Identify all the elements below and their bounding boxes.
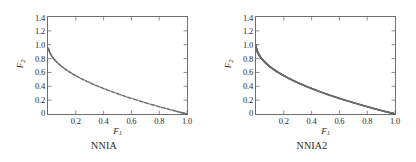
y-tick-label: 0.8 (35, 54, 45, 63)
x-tick-label: 0.2 (71, 117, 81, 126)
plot-svg-nnia (48, 17, 187, 114)
y-tick-label: 1.4 (35, 13, 45, 22)
pareto-curve-nnia (48, 47, 187, 114)
x-tick-label: 0.4 (99, 117, 109, 126)
y-tick-label: 0.8 (243, 54, 253, 63)
chart-panel-nnia2: F2 (208, 0, 416, 162)
plot-area-nnia2: 0 0.2 0.4 0.6 0.8 1.0 1.2 1.4 0.2 0.4 0.… (255, 16, 396, 115)
y-tick-label: 0.2 (243, 96, 253, 105)
tick-marks-right (256, 17, 395, 114)
plot-area-nnia: 0 0.2 0.4 0.6 0.8 1.0 1.2 1.4 0.2 0.4 0.… (47, 16, 188, 115)
y-tick-label: 1.0 (243, 40, 253, 49)
plot-svg-nnia2 (256, 17, 395, 114)
y-axis-label-left: F2 (16, 60, 26, 69)
y-tick-label: 1.0 (35, 40, 45, 49)
y-tick-label: 0.4 (243, 82, 253, 91)
y-tick-label: 1.2 (243, 27, 253, 36)
y-tick-label: 0.6 (35, 68, 45, 77)
x-axis-label-left: F1 (47, 127, 188, 137)
y-tick-label: 0.2 (35, 96, 45, 105)
x-tick-label: 0.2 (279, 117, 289, 126)
x-axis-label-right: F1 (255, 127, 396, 137)
y-tick-label: 0.4 (35, 82, 45, 91)
pareto-curve-nnia2 (256, 44, 395, 114)
y-tick-label: 0.6 (243, 68, 253, 77)
x-tick-label: 0.8 (154, 117, 164, 126)
x-tick-label: 0.6 (126, 117, 136, 126)
tick-marks-left (48, 17, 187, 114)
pareto-front-figure: F2 (0, 0, 416, 162)
panel-caption-nnia: NNIA (0, 141, 208, 151)
y-axis-label-right: F2 (224, 60, 234, 69)
y-tick-label: 1.4 (243, 13, 253, 22)
y-tick-label: 0 (249, 109, 253, 118)
x-tick-label: 0.8 (362, 117, 372, 126)
x-tick-label: 1.0 (390, 117, 400, 126)
panel-caption-nnia2: NNIA2 (208, 141, 416, 151)
x-tick-label: 0.4 (307, 117, 317, 126)
x-tick-label: 1.0 (182, 117, 192, 126)
x-tick-label: 0.6 (334, 117, 344, 126)
y-tick-label: 0 (41, 109, 45, 118)
y-tick-label: 1.2 (35, 27, 45, 36)
chart-panel-nnia: F2 (0, 0, 208, 162)
